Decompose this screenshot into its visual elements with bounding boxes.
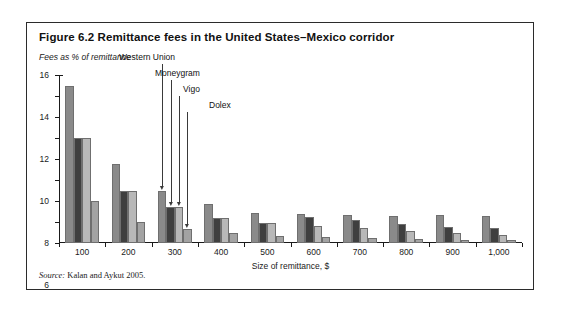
- y-axis-tick: 10: [55, 138, 59, 139]
- bar-western-union-200: [112, 164, 120, 243]
- y-axis-tick-label: 14: [40, 112, 49, 122]
- x-axis-tick: [244, 243, 245, 247]
- screenshot-page: Figure 6.2 Remittance fees in the United…: [0, 0, 563, 320]
- y-axis-tick-label: 6: [44, 280, 49, 290]
- bar-moneygram-1,000: [490, 228, 498, 243]
- bar-moneygram-400: [213, 218, 221, 243]
- annotation-arrow-head: [185, 224, 189, 228]
- y-axis-tick-label: 10: [40, 196, 49, 206]
- x-axis-tick: [105, 243, 106, 247]
- chart-plot-area: 0246810121416 10020030040050060070080090…: [59, 75, 522, 243]
- x-axis-tick: [337, 243, 338, 247]
- x-axis-tick-label: 200: [121, 247, 135, 257]
- annotation-arrow-head: [160, 186, 164, 190]
- bar-western-union-300: [158, 191, 166, 244]
- x-axis-tick-label: 500: [260, 247, 274, 257]
- x-axis-tick-label: 900: [445, 247, 459, 257]
- bar-dolex-100: [91, 201, 99, 243]
- bar-vigo-600: [314, 226, 322, 243]
- annotation-leader-line: [171, 80, 172, 202]
- bar-vigo-700: [360, 228, 368, 243]
- bar-vigo-500: [267, 223, 275, 243]
- y-axis-tick: 12: [55, 117, 59, 118]
- x-axis-tick-label: 300: [168, 247, 182, 257]
- annotation-arrow-head: [168, 202, 172, 206]
- x-axis-tick: [429, 243, 430, 247]
- bar-dolex-1,000: [507, 240, 515, 243]
- y-axis-tick: 6: [55, 180, 59, 181]
- bar-vigo-200: [128, 191, 136, 244]
- y-axis-tick: 4: [55, 201, 59, 202]
- bar-moneygram-200: [120, 191, 128, 244]
- bar-western-union-600: [297, 214, 305, 243]
- bar-moneygram-500: [259, 223, 267, 243]
- bar-western-union-900: [436, 215, 444, 243]
- annotation-label-western-union: Western Union: [119, 52, 175, 62]
- bar-dolex-300: [183, 229, 191, 243]
- bar-dolex-200: [137, 222, 145, 243]
- annotation-label-moneygram: Moneygram: [155, 68, 200, 78]
- x-axis-tick: [476, 243, 477, 247]
- bar-vigo-800: [406, 231, 414, 243]
- y-axis-tick-label: 16: [40, 70, 49, 80]
- bar-moneygram-700: [352, 220, 360, 243]
- bar-vigo-100: [82, 138, 90, 243]
- bar-western-union-100: [65, 86, 73, 244]
- x-axis-tick-label: 800: [399, 247, 413, 257]
- x-axis-tick-label: 100: [75, 247, 89, 257]
- bar-dolex-500: [276, 236, 284, 243]
- y-axis-line: [59, 75, 60, 243]
- x-axis-tick: [383, 243, 384, 247]
- bar-western-union-800: [389, 216, 397, 243]
- bar-dolex-400: [229, 233, 237, 244]
- y-axis-tick-label: 8: [44, 238, 49, 248]
- bar-moneygram-100: [74, 138, 82, 243]
- bar-vigo-1,000: [499, 235, 507, 243]
- x-axis-tick: [152, 243, 153, 247]
- y-axis-tick: 8: [55, 159, 59, 160]
- x-axis-tick-label: 600: [307, 247, 321, 257]
- bar-western-union-700: [343, 215, 351, 243]
- annotation-label-vigo: Vigo: [183, 84, 200, 94]
- bar-vigo-400: [221, 218, 229, 243]
- x-axis-tick-label: 700: [353, 247, 367, 257]
- bar-western-union-1,000: [482, 216, 490, 243]
- x-axis-tick: [291, 243, 292, 247]
- y-axis-tick: 14: [55, 96, 59, 97]
- x-axis-tick: [198, 243, 199, 247]
- x-axis-tick-label: 1,000: [488, 247, 509, 257]
- y-axis-top-cap: [59, 75, 63, 76]
- bar-dolex-900: [461, 240, 469, 243]
- bar-western-union-400: [204, 204, 212, 243]
- figure-source-note: Source: Kalan and Aykut 2005.: [39, 270, 145, 280]
- x-axis-tick: [59, 243, 60, 247]
- annotation-leader-line: [187, 112, 188, 224]
- bar-moneygram-600: [305, 217, 313, 243]
- bar-vigo-900: [453, 233, 461, 244]
- x-axis-tick: [522, 243, 523, 247]
- bar-moneygram-300: [166, 207, 174, 243]
- annotation-arrow-head: [177, 202, 181, 206]
- y-axis-tick-label: 12: [40, 154, 49, 164]
- bar-moneygram-900: [444, 227, 452, 243]
- source-text: Kalan and Aykut 2005.: [65, 270, 145, 280]
- bar-vigo-300: [175, 207, 183, 243]
- figure-container: Figure 6.2 Remittance fees in the United…: [26, 22, 534, 290]
- bar-moneygram-800: [398, 224, 406, 243]
- annotation-label-dolex: Dolex: [209, 100, 231, 110]
- annotation-leader-line: [179, 96, 180, 202]
- figure-title: Figure 6.2 Remittance fees in the United…: [39, 31, 394, 43]
- annotation-leader-line: [162, 64, 163, 186]
- y-axis-unit-label: Fees as % of remittance: [39, 52, 131, 62]
- bar-western-union-500: [251, 213, 259, 243]
- x-axis-tick-label: 400: [214, 247, 228, 257]
- bar-dolex-600: [322, 237, 330, 243]
- bar-dolex-800: [415, 239, 423, 243]
- bar-dolex-700: [368, 238, 376, 243]
- y-axis-tick: 2: [55, 222, 59, 223]
- source-prefix: Source:: [39, 270, 65, 280]
